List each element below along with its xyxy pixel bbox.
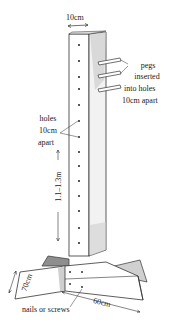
pegs-label-2: inserted: [124, 72, 170, 81]
pegs-label-4: 10cm apart: [122, 96, 158, 105]
base-back-left: [42, 256, 69, 266]
fasteners-label: nails or screws: [22, 305, 70, 314]
pegs-label-1: pegs: [128, 61, 168, 70]
top-width-label: 10cm: [66, 13, 84, 22]
holes-label-3: apart: [32, 138, 60, 147]
pegs-label-3: into holes: [124, 84, 155, 93]
holes-label-2: 10cm: [34, 126, 62, 135]
post-front: [69, 34, 89, 256]
height-label: 1.1–1.3m: [54, 167, 63, 207]
holes-label-1: holes: [34, 114, 62, 123]
width-arrow: [68, 25, 88, 26]
